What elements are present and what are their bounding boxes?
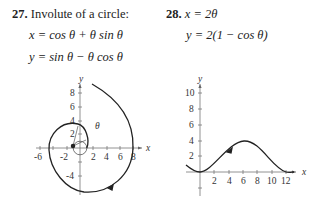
svg-text:8: 8 <box>255 176 260 186</box>
involute-chart <box>36 84 142 195</box>
svg-text:y: y <box>197 74 203 84</box>
svg-text:8: 8 <box>189 104 194 114</box>
svg-text:2: 2 <box>91 152 96 162</box>
svg-text:4: 4 <box>227 176 232 186</box>
svg-text:6: 6 <box>118 152 123 162</box>
svg-text:2: 2 <box>212 176 217 186</box>
svg-text:4: 4 <box>70 116 75 126</box>
cycloid-labels: y x 24 68 1012 108 64 2 <box>185 74 307 186</box>
svg-text:-6: -6 <box>34 152 42 162</box>
svg-text:2: 2 <box>70 129 75 139</box>
svg-text:-2: -2 <box>60 152 68 162</box>
svg-text:x: x <box>301 167 307 177</box>
svg-text:6: 6 <box>241 176 246 186</box>
svg-text:12: 12 <box>281 176 291 186</box>
svg-text:-4: -4 <box>66 171 74 181</box>
x-axis-label: x <box>145 143 151 153</box>
svg-text:2: 2 <box>189 151 194 161</box>
svg-text:4: 4 <box>104 152 109 162</box>
svg-text:4: 4 <box>189 136 194 146</box>
svg-text:10: 10 <box>185 88 195 98</box>
svg-text:θ: θ <box>95 121 100 131</box>
svg-text:8: 8 <box>70 88 75 98</box>
svg-text:6: 6 <box>70 102 75 112</box>
svg-text:10: 10 <box>267 176 277 186</box>
y-axis-label: y <box>78 74 84 84</box>
charts: y x -6-2 24 68 86 42 -4 θ y x 24 <box>0 0 319 208</box>
involute-curve <box>49 84 133 192</box>
svg-text:6: 6 <box>189 120 194 130</box>
cycloid-curve <box>186 141 294 172</box>
involute-labels: y x -6-2 24 68 86 42 -4 θ <box>34 74 151 181</box>
